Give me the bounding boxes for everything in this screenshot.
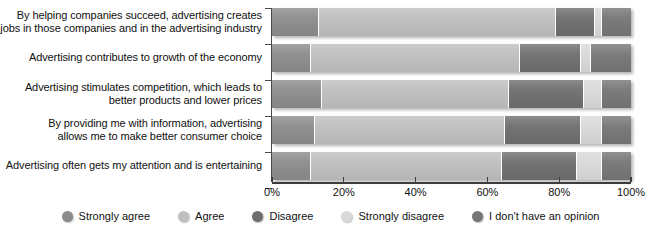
category-axis-spine bbox=[271, 8, 272, 182]
bar-track bbox=[272, 80, 631, 108]
chart-row: By helping companies succeed, advertisin… bbox=[0, 8, 661, 36]
plot-area: By helping companies succeed, advertisin… bbox=[0, 0, 661, 196]
category-label-line: By providing me with information, advert… bbox=[0, 117, 262, 131]
bar-segment-agree bbox=[315, 116, 505, 144]
legend-swatch-icon bbox=[62, 211, 73, 222]
legend-label: Strongly agree bbox=[79, 210, 151, 222]
category-tick bbox=[265, 116, 272, 117]
bar-segment-i-don-t-have-an-opinion bbox=[591, 44, 630, 72]
legend-label: I don't have an opinion bbox=[489, 210, 599, 222]
legend-label: Disagree bbox=[269, 210, 313, 222]
axis-tick-label: 20% bbox=[333, 186, 355, 198]
legend-item[interactable]: Disagree bbox=[252, 210, 313, 222]
bar-segment-agree bbox=[319, 8, 556, 36]
category-label-line: Advertising contributes to growth of the… bbox=[0, 51, 262, 65]
bar-segment-strongly-agree bbox=[272, 152, 311, 180]
legend-swatch-icon bbox=[472, 211, 483, 222]
bar-segment-disagree bbox=[556, 8, 595, 36]
chart-row: By providing me with information, advert… bbox=[0, 116, 661, 144]
category-label-line: better products and lower prices bbox=[0, 94, 262, 108]
chart-row: Advertising stimulates competition, whic… bbox=[0, 80, 661, 108]
axis-tick-label: 0% bbox=[264, 186, 280, 198]
legend-item[interactable]: Strongly disagree bbox=[341, 210, 444, 222]
legend-item[interactable]: I don't have an opinion bbox=[472, 210, 599, 222]
axis-tick bbox=[487, 177, 488, 182]
bar-segment-strongly-agree bbox=[272, 80, 322, 108]
bar-track bbox=[272, 44, 631, 72]
category-label: By helping companies succeed, advertisin… bbox=[0, 9, 272, 36]
axis-tick-label: 80% bbox=[548, 186, 570, 198]
category-label-line: Advertising stimulates competition, whic… bbox=[0, 81, 262, 95]
axis-tick-label: 100% bbox=[617, 186, 645, 198]
bar-segment-disagree bbox=[502, 152, 577, 180]
bar-segment-i-don-t-have-an-opinion bbox=[602, 116, 631, 144]
axis-tick bbox=[415, 177, 416, 182]
axis-tick bbox=[630, 177, 631, 182]
bar-track bbox=[272, 152, 631, 180]
bar-segment-i-don-t-have-an-opinion bbox=[602, 8, 631, 36]
category-tick bbox=[265, 44, 272, 45]
bar-segment-strongly-disagree bbox=[595, 8, 602, 36]
stacked-bar bbox=[272, 116, 631, 144]
axis-tick bbox=[271, 177, 272, 182]
category-label: By providing me with information, advert… bbox=[0, 117, 272, 144]
bar-track bbox=[272, 8, 631, 36]
stacked-bar bbox=[272, 80, 631, 108]
bar-segment-strongly-agree bbox=[272, 8, 319, 36]
bar-segment-i-don-t-have-an-opinion bbox=[602, 152, 631, 180]
legend-item[interactable]: Agree bbox=[178, 210, 224, 222]
bar-segment-agree bbox=[311, 152, 501, 180]
bar-segment-disagree bbox=[520, 44, 581, 72]
bar-segment-strongly-agree bbox=[272, 44, 311, 72]
legend-label: Strongly disagree bbox=[358, 210, 444, 222]
bar-segment-i-don-t-have-an-opinion bbox=[602, 80, 631, 108]
legend-swatch-icon bbox=[252, 211, 263, 222]
bar-rows: By helping companies succeed, advertisin… bbox=[0, 8, 661, 188]
chart-legend: Strongly agreeAgreeDisagreeStrongly disa… bbox=[0, 210, 661, 222]
bar-segment-strongly-disagree bbox=[581, 116, 603, 144]
chart-row: Advertising contributes to growth of the… bbox=[0, 44, 661, 72]
category-label: Advertising contributes to growth of the… bbox=[0, 51, 272, 65]
category-tick bbox=[265, 80, 272, 81]
category-tick bbox=[265, 152, 272, 153]
category-label-line: jobs in those companies and in the adver… bbox=[0, 22, 262, 36]
legend-label: Agree bbox=[195, 210, 224, 222]
chart-row: Advertising often gets my attention and … bbox=[0, 152, 661, 180]
bar-segment-disagree bbox=[505, 116, 580, 144]
category-label-line: By helping companies succeed, advertisin… bbox=[0, 9, 262, 23]
bar-segment-agree bbox=[311, 44, 519, 72]
axis-tick bbox=[343, 177, 344, 182]
stacked-bar bbox=[272, 44, 631, 72]
stacked-bar bbox=[272, 8, 631, 36]
category-label: Advertising often gets my attention and … bbox=[0, 159, 272, 173]
bar-segment-strongly-disagree bbox=[584, 80, 602, 108]
category-tick bbox=[265, 8, 272, 9]
value-axis: 0%20%40%60%80%100% bbox=[272, 182, 631, 184]
legend-swatch-icon bbox=[178, 211, 189, 222]
axis-tick-label: 60% bbox=[476, 186, 498, 198]
legend-item[interactable]: Strongly agree bbox=[62, 210, 151, 222]
bar-segment-strongly-disagree bbox=[577, 152, 602, 180]
category-label-line: allows me to make better consumer choice bbox=[0, 130, 262, 144]
stacked-bar bbox=[272, 152, 631, 180]
bar-segment-strongly-agree bbox=[272, 116, 315, 144]
category-label: Advertising stimulates competition, whic… bbox=[0, 81, 272, 108]
bar-segment-agree bbox=[322, 80, 509, 108]
legend-swatch-icon bbox=[341, 211, 352, 222]
category-label-line: Advertising often gets my attention and … bbox=[0, 159, 262, 173]
stacked-bar-chart: By helping companies succeed, advertisin… bbox=[0, 0, 661, 243]
axis-tick-label: 40% bbox=[405, 186, 427, 198]
bar-segment-strongly-disagree bbox=[581, 44, 592, 72]
bar-segment-disagree bbox=[509, 80, 584, 108]
bar-track bbox=[272, 116, 631, 144]
axis-tick bbox=[559, 177, 560, 182]
